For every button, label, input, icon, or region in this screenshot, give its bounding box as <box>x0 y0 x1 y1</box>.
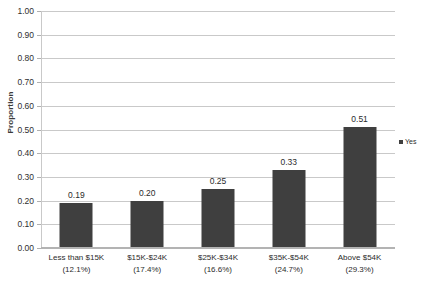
gridline <box>41 248 395 249</box>
x-axis-category-name: $35K-$54K <box>253 252 324 264</box>
y-axis-tick-label: 0.50 <box>17 125 34 135</box>
y-axis-tick-label: 0.00 <box>17 243 34 253</box>
y-axis-tick-label: 0.80 <box>17 53 34 63</box>
bar[interactable] <box>343 127 376 248</box>
x-axis-category-label: $35K-$54K(24.7%) <box>253 252 324 275</box>
x-axis-category-percent: (12.1%) <box>41 264 112 276</box>
y-axis-tickmark <box>37 11 41 12</box>
y-axis-tickmark <box>37 248 41 249</box>
bar[interactable] <box>131 201 164 248</box>
bar-slot: 0.19 <box>41 11 112 248</box>
bar[interactable] <box>201 189 234 248</box>
bar-value-label: 0.20 <box>139 188 156 198</box>
bar-slot: 0.25 <box>183 11 254 248</box>
x-axis-line <box>41 247 395 248</box>
bar-series-yes: 0.190.200.250.330.51 <box>41 11 395 248</box>
x-axis-category-labels: Less than $15K(12.1%)$15K-$24K(17.4%)$25… <box>41 252 395 286</box>
x-axis-category-label: Above $54K(29.3%) <box>324 252 395 275</box>
legend-swatch-icon <box>399 140 403 144</box>
bar[interactable] <box>272 170 305 248</box>
y-axis-tickmark <box>37 106 41 107</box>
x-axis-category-percent: (24.7%) <box>253 264 324 276</box>
y-axis-tickmark <box>37 224 41 225</box>
bar-slot: 0.51 <box>324 11 395 248</box>
legend-label-yes: Yes <box>405 138 416 145</box>
x-axis-category-label: $15K-$24K(17.4%) <box>112 252 183 275</box>
bar-value-label: 0.25 <box>210 176 227 186</box>
x-axis-category-percent: (29.3%) <box>324 264 395 276</box>
y-axis-tickmark <box>37 35 41 36</box>
bar-value-label: 0.33 <box>281 157 298 167</box>
x-axis-category-percent: (17.4%) <box>112 264 183 276</box>
bar-value-label: 0.19 <box>68 190 85 200</box>
x-axis-category-label: $25K-$34K(16.6%) <box>183 252 254 275</box>
x-axis-category-percent: (16.6%) <box>183 264 254 276</box>
y-axis-tick-label: 0.20 <box>17 196 34 206</box>
x-axis-category-name: Less than $15K <box>41 252 112 264</box>
y-axis-tickmark <box>37 201 41 202</box>
plot-area: 0.190.200.250.330.51 <box>41 11 395 248</box>
bar-slot: 0.20 <box>112 11 183 248</box>
chart-legend: Yes <box>399 138 416 145</box>
y-axis-tickmark <box>37 82 41 83</box>
y-axis-tick-label: 1.00 <box>17 6 34 16</box>
y-axis-tickmark <box>37 130 41 131</box>
y-axis-tickmark <box>37 153 41 154</box>
y-axis-tick-label: 0.30 <box>17 172 34 182</box>
y-axis-tickmark <box>37 177 41 178</box>
y-axis-tick-label: 0.10 <box>17 219 34 229</box>
bar-slot: 0.33 <box>253 11 324 248</box>
x-axis-category-name: Above $54K <box>324 252 395 264</box>
y-axis-tick-label: 0.70 <box>17 77 34 87</box>
x-axis-category-label: Less than $15K(12.1%) <box>41 252 112 275</box>
y-axis-tick-label: 0.40 <box>17 148 34 158</box>
bar-value-label: 0.51 <box>351 114 368 124</box>
x-axis-category-name: $25K-$34K <box>183 252 254 264</box>
bar-chart: Proportion 0.000.100.200.300.400.500.600… <box>0 0 427 289</box>
y-axis-tick-label: 0.90 <box>17 30 34 40</box>
y-axis-tick-labels: 0.000.100.200.300.400.500.600.700.800.90… <box>0 0 38 289</box>
y-axis-tick-label: 0.60 <box>17 101 34 111</box>
y-axis-tickmark <box>37 58 41 59</box>
x-axis-category-name: $15K-$24K <box>112 252 183 264</box>
bar[interactable] <box>60 203 93 248</box>
